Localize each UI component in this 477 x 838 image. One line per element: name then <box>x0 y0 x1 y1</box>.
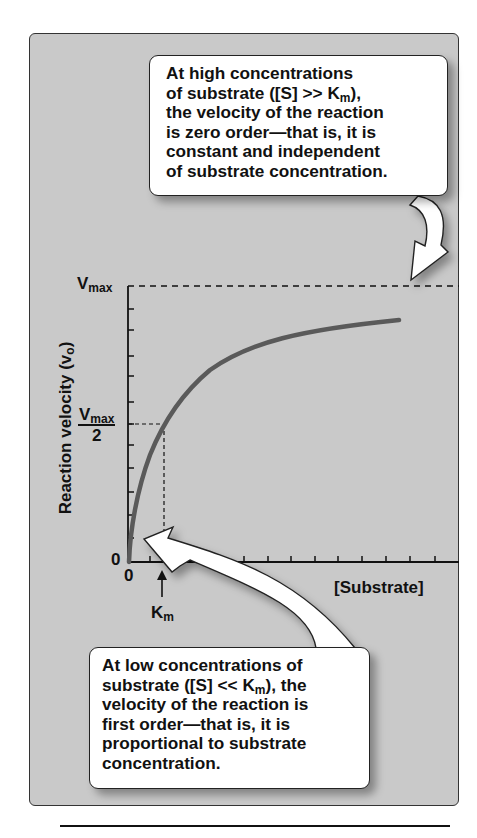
x-axis-label: [Substrate] <box>334 578 424 598</box>
km-arrow-icon <box>0 0 477 838</box>
bottom-rule <box>60 825 450 827</box>
km-label: Km <box>151 603 174 623</box>
